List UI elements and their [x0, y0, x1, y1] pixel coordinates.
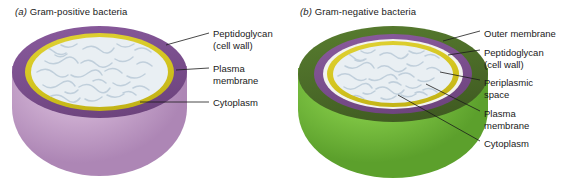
label-plasma-membrane-a: Plasma membrane — [213, 63, 258, 86]
label-periplasmic-space-b-line2: space — [484, 89, 533, 101]
label-plasma-membrane-b: Plasma membrane — [484, 108, 529, 131]
label-cytoplasm-a: Cytoplasm — [213, 97, 258, 109]
label-peptidoglycan-b-line1: Peptidoglycan — [484, 47, 544, 59]
label-peptidoglycan-a-line1: Peptidoglycan — [213, 28, 273, 40]
label-outer-membrane-b: Outer membrane — [484, 28, 556, 40]
label-periplasmic-space-b-line1: Periplasmic — [484, 77, 533, 89]
label-peptidoglycan-a-line2: (cell wall) — [213, 40, 273, 52]
label-periplasmic-space-b: Periplasmic space — [484, 77, 533, 100]
label-plasma-membrane-a-line2: membrane — [213, 75, 258, 87]
panel-gram-negative: (b) Gram-negative bacteria — [288, 0, 576, 190]
label-plasma-membrane-b-line1: Plasma — [484, 108, 529, 120]
label-peptidoglycan-a: Peptidoglycan (cell wall) — [213, 28, 273, 51]
label-outer-membrane-b-line1: Outer membrane — [484, 28, 556, 40]
label-cytoplasm-b-line1: Cytoplasm — [484, 138, 529, 150]
label-plasma-membrane-a-line1: Plasma — [213, 63, 258, 75]
label-plasma-membrane-b-line2: membrane — [484, 120, 529, 132]
label-cytoplasm-a-line1: Cytoplasm — [213, 97, 258, 109]
panel-gram-positive: (a) Gram-positive bacteria — [0, 0, 288, 190]
label-cytoplasm-b: Cytoplasm — [484, 138, 529, 150]
label-peptidoglycan-b: Peptidoglycan (cell wall) — [484, 47, 544, 70]
label-peptidoglycan-b-line2: (cell wall) — [484, 59, 544, 71]
